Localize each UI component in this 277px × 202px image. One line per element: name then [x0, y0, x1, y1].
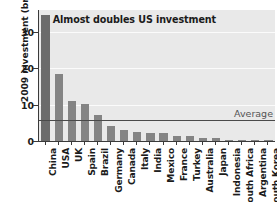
x-tick-label: South Korea	[271, 148, 277, 202]
x-tick-mark	[123, 141, 124, 145]
bar	[173, 136, 181, 141]
average-reference-line	[39, 120, 275, 121]
x-tick-mark	[176, 141, 177, 145]
x-tick-label: Turkey	[192, 148, 202, 181]
y-tick-label: 20	[0, 63, 34, 74]
x-tick-label: Australia	[205, 148, 215, 192]
x-tick-mark	[254, 141, 255, 145]
bar-chart: 2009 investment (bn US$) 0102030 Average…	[0, 0, 277, 202]
bar	[199, 138, 207, 141]
x-tick-mark	[228, 141, 229, 145]
bar	[186, 136, 194, 141]
x-tick-label: Mexico	[166, 148, 176, 183]
x-tick-label: Argentina	[258, 148, 268, 197]
bar	[146, 133, 154, 141]
x-tick-mark	[45, 141, 46, 145]
x-tick-label: Germany	[114, 148, 124, 193]
bar	[107, 126, 115, 141]
x-tick-mark	[136, 141, 137, 145]
bar	[68, 101, 76, 141]
bar	[238, 140, 246, 141]
average-label: Average	[234, 108, 273, 119]
x-tick-label: Italy	[140, 148, 150, 170]
bar	[251, 140, 259, 141]
x-tick-mark	[110, 141, 111, 145]
bar	[41, 15, 49, 141]
gridline	[39, 68, 275, 69]
x-tick-label: Canada	[127, 148, 137, 185]
x-tick-mark	[97, 141, 98, 145]
x-tick-label: Indonesia	[232, 148, 242, 196]
bar	[133, 132, 141, 141]
y-tick-label: 10	[0, 99, 34, 110]
y-tick-label: 30	[0, 26, 34, 37]
x-tick-label: USA	[61, 148, 71, 168]
x-tick-label: UK	[74, 148, 84, 162]
gridline	[39, 32, 275, 33]
bar	[120, 130, 128, 141]
x-tick-mark	[84, 141, 85, 145]
x-tick-mark	[58, 141, 59, 145]
bar	[159, 133, 167, 141]
bar	[264, 140, 272, 141]
x-tick-mark	[267, 141, 268, 145]
bar	[55, 74, 63, 141]
bar	[94, 115, 102, 141]
x-tick-label: India	[153, 148, 163, 173]
x-tick-mark	[241, 141, 242, 145]
x-tick-mark	[163, 141, 164, 145]
x-tick-label: China	[48, 148, 58, 176]
y-axis-title: 2009 investment (bn US$)	[19, 0, 30, 106]
x-tick-label: Japan	[218, 148, 228, 176]
annotation-text: Almost doubles US investment	[53, 14, 216, 25]
x-tick-mark	[215, 141, 216, 145]
x-tick-mark	[71, 141, 72, 145]
x-tick-mark	[202, 141, 203, 145]
x-tick-label: South Africa	[245, 148, 255, 202]
x-tick-mark	[189, 141, 190, 145]
x-tick-label: France	[179, 148, 189, 181]
x-tick-label: Spain	[87, 148, 97, 176]
x-tick-mark	[149, 141, 150, 145]
bar	[81, 104, 89, 141]
plot-area: Average Almost doubles US investment	[38, 10, 275, 142]
x-tick-label: Brazil	[100, 148, 110, 176]
y-tick-label: 0	[0, 136, 34, 147]
